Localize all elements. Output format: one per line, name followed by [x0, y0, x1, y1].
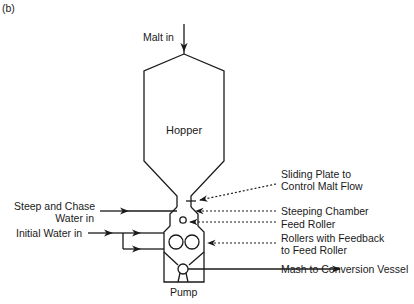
- steeping-chamber-label: Steeping Chamber: [281, 205, 369, 217]
- feed-roller: [180, 217, 186, 223]
- roller-left: [169, 235, 183, 249]
- steep-water-label: Steep and Chase Water in: [14, 200, 94, 224]
- sliding-plate-label: Sliding Plate to Control Malt Flow: [281, 168, 363, 192]
- rollers-label: Rollers with Feedback to Feed Roller: [281, 232, 384, 256]
- mash-out-label: Mash to Conversion Vessel: [281, 263, 408, 275]
- pump-circle: [178, 264, 188, 274]
- malt-in-label: Malt in: [143, 31, 174, 43]
- panel-label: (b): [2, 2, 15, 14]
- initial-water-label: Initial Water in: [16, 227, 82, 239]
- pump-label: Pump: [170, 286, 197, 298]
- roller-right: [185, 235, 199, 249]
- sliding-plate-leader: [200, 184, 276, 200]
- feed-roller-label: Feed Roller: [281, 218, 335, 230]
- malt-mill-diagram: [0, 0, 414, 304]
- hopper-label: Hopper: [166, 124, 202, 136]
